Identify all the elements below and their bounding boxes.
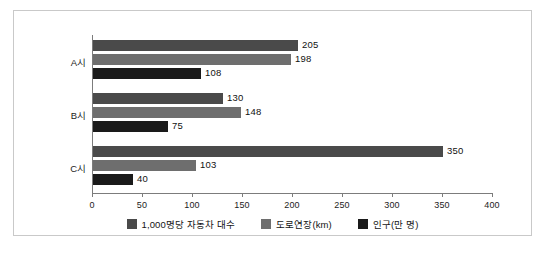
x-tick-mark: [492, 193, 493, 197]
x-tick-label: 100: [184, 200, 200, 210]
legend-label: 도로연장(km): [276, 217, 332, 231]
bar: [93, 121, 168, 132]
legend-label: 인구(만 명): [373, 217, 419, 231]
bar-value-label: 148: [245, 106, 261, 117]
category-label: C시: [70, 161, 86, 175]
x-tick-mark: [342, 193, 343, 197]
legend-item[interactable]: 도로연장(km): [261, 217, 332, 231]
x-tick-label: 300: [384, 200, 400, 210]
bar-value-label: 108: [205, 67, 221, 78]
legend-item[interactable]: 1,000명당 자동차 대수: [127, 217, 235, 231]
x-tick-label: 350: [434, 200, 450, 210]
bar-value-label: 103: [200, 159, 216, 170]
bar-row: 148: [93, 107, 493, 118]
bar-row: 108: [93, 68, 493, 79]
category-label: A시: [71, 55, 86, 69]
bar: [93, 54, 291, 65]
x-tick-mark: [142, 193, 143, 197]
bar-value-label: 130: [227, 92, 243, 103]
bar: [93, 174, 133, 185]
x-tick-mark: [392, 193, 393, 197]
chart-legend: 1,000명당 자동차 대수도로연장(km)인구(만 명): [14, 217, 531, 231]
bar: [93, 160, 196, 171]
bar-row: 350: [93, 146, 493, 157]
bar-value-label: 198: [295, 53, 311, 64]
x-tick-label: 250: [334, 200, 350, 210]
x-tick-label: 200: [284, 200, 300, 210]
bar: [93, 68, 201, 79]
bar: [93, 40, 298, 51]
legend-swatch-icon: [261, 219, 271, 229]
bar-row: 75: [93, 121, 493, 132]
x-tick-mark: [442, 193, 443, 197]
plot-area: 050100150200250300350400 A시205198108B시13…: [92, 35, 492, 193]
bar-value-label: 205: [302, 39, 318, 50]
bar: [93, 107, 241, 118]
x-tick-label: 150: [234, 200, 250, 210]
bar-row: 103: [93, 160, 493, 171]
bar: [93, 93, 223, 104]
legend-item[interactable]: 인구(만 명): [358, 217, 419, 231]
bar-group: C시35010340: [93, 146, 493, 188]
bar-group: B시13014875: [93, 93, 493, 135]
x-tick-label: 50: [137, 200, 147, 210]
category-label: B시: [71, 108, 86, 122]
chart-frame: 050100150200250300350400 A시205198108B시13…: [13, 10, 532, 236]
bar: [93, 146, 443, 157]
bar-value-label: 40: [137, 173, 148, 184]
bar-row: 205: [93, 40, 493, 51]
bar-group: A시205198108: [93, 40, 493, 82]
x-tick-mark: [92, 193, 93, 197]
bar-value-label: 75: [172, 120, 183, 131]
legend-label: 1,000명당 자동차 대수: [142, 217, 235, 231]
bar-row: 198: [93, 54, 493, 65]
x-tick-label: 400: [484, 200, 500, 210]
bar-row: 130: [93, 93, 493, 104]
x-tick-mark: [292, 193, 293, 197]
bar-value-label: 350: [447, 145, 463, 156]
x-tick-label: 0: [89, 200, 94, 210]
x-tick-mark: [242, 193, 243, 197]
legend-swatch-icon: [127, 219, 137, 229]
legend-swatch-icon: [358, 219, 368, 229]
x-tick-mark: [192, 193, 193, 197]
bar-row: 40: [93, 174, 493, 185]
